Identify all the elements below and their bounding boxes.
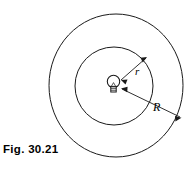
- inner-radius-arrow: [121, 57, 147, 85]
- figure-caption: Fig. 30.21: [3, 143, 58, 155]
- light-bulb-icon: [107, 75, 119, 92]
- outer-radius-arrow: [121, 87, 182, 122]
- inner-radius-label: r: [135, 65, 140, 77]
- figure-container: r R Fig. 30.21: [0, 0, 196, 169]
- outer-radius-label: R: [152, 100, 161, 114]
